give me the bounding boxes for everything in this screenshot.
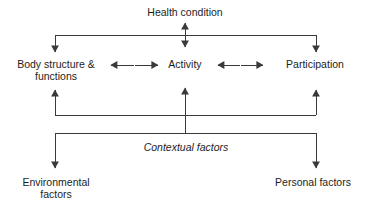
icf-diagram: Health condition Body structure & functi… [0, 0, 369, 208]
node-body-structure-label-line1: Body structure & [2, 58, 110, 70]
node-environmental-factors-label-line2: factors [2, 188, 110, 200]
node-activity-label: Activity [148, 58, 222, 70]
node-health-condition-label: Health condition [120, 6, 250, 18]
node-participation: Participation [262, 58, 368, 70]
node-environmental-factors-label-line1: Environmental [2, 176, 110, 188]
node-activity: Activity [148, 58, 222, 70]
node-personal-factors: Personal factors [256, 176, 369, 188]
node-body-structure-label-line2: functions [2, 70, 110, 82]
node-contextual-factors: Contextual factors [120, 141, 252, 153]
node-participation-label: Participation [262, 58, 368, 70]
node-contextual-factors-label: Contextual factors [120, 141, 252, 153]
node-body-structure: Body structure & functions [2, 58, 110, 82]
node-personal-factors-label: Personal factors [256, 176, 369, 188]
node-health-condition: Health condition [120, 6, 250, 18]
node-environmental-factors: Environmental factors [2, 176, 110, 200]
